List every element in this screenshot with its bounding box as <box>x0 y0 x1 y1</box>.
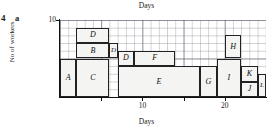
activity-block-label: I <box>228 74 231 82</box>
activity-block-label: L <box>260 82 264 89</box>
x-tick-mark-15 <box>184 97 185 101</box>
activity-block-label: G <box>205 78 211 86</box>
activity-block-label: D <box>111 47 116 54</box>
activity-block-label: D <box>90 31 96 39</box>
activity-block-j-12: J <box>241 82 257 97</box>
activity-block-d-3: D <box>76 28 109 43</box>
activity-block-k-11: K <box>241 66 257 81</box>
activity-block-label: C <box>90 74 95 82</box>
x-tick-label-20: 20 <box>214 101 236 110</box>
activity-block-a-0: A <box>60 59 76 98</box>
activity-block-label: B <box>91 47 96 55</box>
activity-block-d-4: D <box>109 43 117 58</box>
activity-block-label: K <box>247 70 252 78</box>
activity-block-label: J <box>248 85 252 93</box>
activity-block-label: E <box>156 78 161 86</box>
activity-block-g-8: G <box>200 66 216 97</box>
activity-block-label: H <box>230 43 236 51</box>
x-tick-label-10: 10 <box>131 101 153 110</box>
activity-block-l-13: L <box>258 74 266 97</box>
activity-block-d-5: D <box>118 51 134 66</box>
activity-block-label: F <box>152 54 157 62</box>
plot-area: ABCDDDFEGHIKJL <box>60 20 266 97</box>
chart-top-title: Days <box>0 1 269 10</box>
activity-block-c-2: C <box>76 59 109 98</box>
y-tick-mark-10 <box>56 20 60 21</box>
x-axis-title: Days <box>0 117 269 126</box>
activity-block-b-1: B <box>76 43 109 58</box>
question-number: 4 <box>1 13 6 23</box>
activity-block-label: D <box>123 54 129 62</box>
activity-block-f-6: F <box>134 51 175 66</box>
y-axis-line <box>59 19 60 98</box>
y-tick-label-10: 10 <box>40 15 56 24</box>
activity-block-e-7: E <box>118 66 200 97</box>
activity-block-h-9: H <box>225 35 241 58</box>
x-tick-mark-5 <box>101 97 102 101</box>
activity-block-label: A <box>66 74 71 82</box>
y-axis-title: No of workers <box>8 12 16 72</box>
activity-block-i-10: I <box>217 59 242 98</box>
figure-root: 4 a Days No of workers Days ABCDDDFEGHIK… <box>0 0 269 129</box>
x-axis-line <box>59 97 267 98</box>
